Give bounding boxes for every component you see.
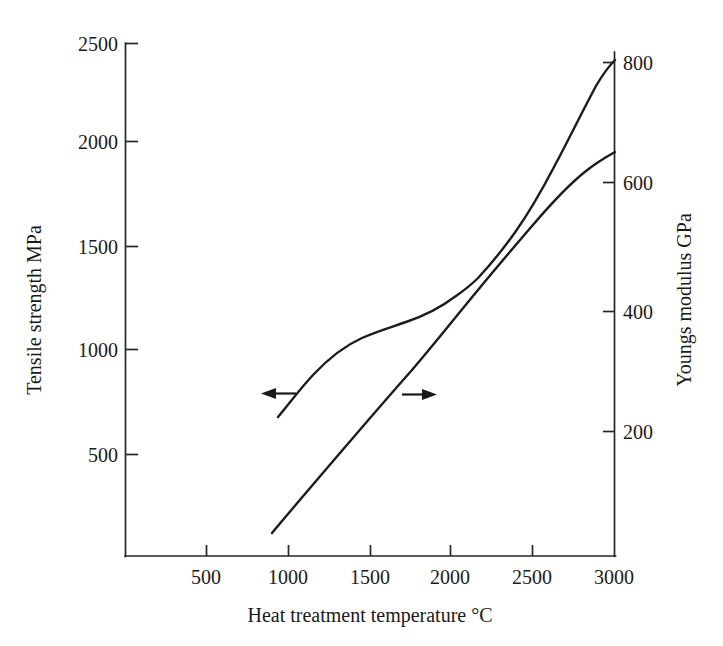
series-line-youngs-modulus <box>272 152 615 533</box>
series-line-tensile-strength <box>278 60 615 417</box>
left-tick-label-1000: 1000 <box>78 339 118 361</box>
right-tick-label-400: 400 <box>623 301 653 323</box>
right-tick-label-200: 200 <box>623 421 653 443</box>
right-axis-tick-labels: 800 600 400 200 <box>623 52 653 443</box>
right-axis-ticks <box>603 63 614 432</box>
x-axis-ticks <box>207 545 533 556</box>
x-tick-label-3000: 3000 <box>594 566 634 588</box>
chart-figure: 2500 2000 1500 1000 500 800 600 400 200 <box>0 0 723 646</box>
left-tick-label-1500: 1500 <box>78 236 118 258</box>
y-left-axis-title: Tensile strength MPa <box>23 225 46 395</box>
x-axis-title: Heat treatment temperature °C <box>247 604 492 627</box>
x-tick-label-1000: 1000 <box>268 566 308 588</box>
arrow-left-icon <box>261 388 296 399</box>
y-right-axis-title: Youngs modulus GPa <box>673 213 696 387</box>
right-tick-label-600: 600 <box>623 172 653 194</box>
x-tick-label-1500: 1500 <box>350 566 390 588</box>
right-tick-label-800: 800 <box>623 52 653 74</box>
arrow-right-icon <box>402 389 437 400</box>
left-tick-label-500: 500 <box>88 444 118 466</box>
left-axis-tick-labels: 2500 2000 1500 1000 500 <box>78 33 118 466</box>
left-tick-label-2500: 2500 <box>78 33 118 55</box>
left-tick-label-2000: 2000 <box>78 131 118 153</box>
x-tick-label-2000: 2000 <box>430 566 470 588</box>
x-tick-label-2500: 2500 <box>512 566 552 588</box>
x-tick-label-500: 500 <box>191 566 221 588</box>
axes-group <box>125 43 616 557</box>
x-axis-tick-labels: 500 1000 1500 2000 2500 3000 <box>191 566 634 588</box>
left-axis-ticks <box>126 44 138 455</box>
chart-canvas: 2500 2000 1500 1000 500 800 600 400 200 <box>0 0 723 646</box>
